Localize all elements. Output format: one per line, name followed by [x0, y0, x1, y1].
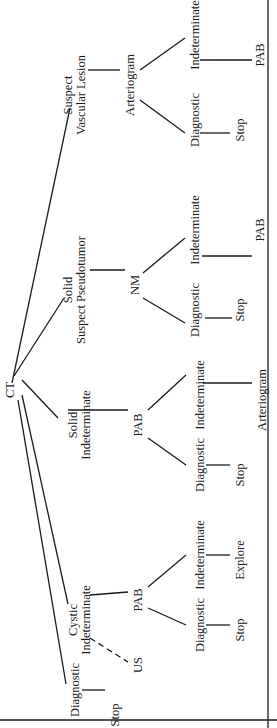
node-ct: CT: [4, 382, 17, 398]
node-svl_art: Arteriogram: [124, 54, 137, 116]
connector-line: [148, 375, 186, 410]
connector-line: [143, 238, 185, 273]
node-svl_ind: Indeterminate: [189, 0, 202, 69]
node-si_pab: PAB: [132, 413, 145, 436]
node-ci: CysticIndeterminate: [67, 585, 93, 654]
connector-line: [22, 395, 68, 604]
connector-line: [143, 298, 185, 323]
connector-line: [90, 592, 128, 595]
node-si_ind: Indeterminate: [194, 360, 207, 429]
diagnostic-flowchart: CTSuspectVascular LesionArteriogramDiagn…: [0, 0, 277, 728]
dashed-connector-line: [90, 638, 128, 662]
connector-line: [148, 608, 186, 625]
connector-line: [148, 438, 186, 465]
node-ci_us: US: [132, 657, 145, 673]
node-diag_stop: Stop: [109, 704, 122, 727]
node-ssp_nm: NM: [129, 275, 142, 295]
node-ci_pab: PAB: [132, 588, 145, 611]
node-diag: Diagnostic: [69, 663, 82, 717]
connector-line: [140, 38, 185, 70]
node-ci_explore: Explore: [234, 540, 247, 580]
node-ssp_pab: PAB: [254, 218, 267, 241]
connector-line: [18, 400, 66, 684]
node-ci_stop: Stop: [234, 619, 247, 642]
connector-line: [22, 380, 58, 418]
connector-line: [148, 555, 186, 587]
node-si_diag: Diagnostic: [194, 438, 207, 492]
node-ci_ind: Indeterminate: [194, 520, 207, 589]
connector-line: [140, 100, 185, 133]
node-ssp: SolidSuspect Pseudotumor: [62, 236, 88, 344]
node-ssp_ind: Indeterminate: [189, 195, 202, 264]
node-svl_diag: Diagnostic: [189, 93, 202, 147]
node-si: SolidIndeterminate: [67, 390, 93, 459]
node-ssp_diag: Diagnostic: [189, 283, 202, 337]
node-si_stop: Stop: [234, 464, 247, 487]
node-ssp_stop: Stop: [234, 299, 247, 322]
node-ci_diag: Diagnostic: [194, 598, 207, 652]
node-svl_pab: PAB: [254, 43, 267, 66]
node-svl: SuspectVascular Lesion: [62, 55, 88, 135]
node-si_art: Arteriogram: [256, 369, 269, 431]
node-svl_stop: Stop: [234, 119, 247, 142]
